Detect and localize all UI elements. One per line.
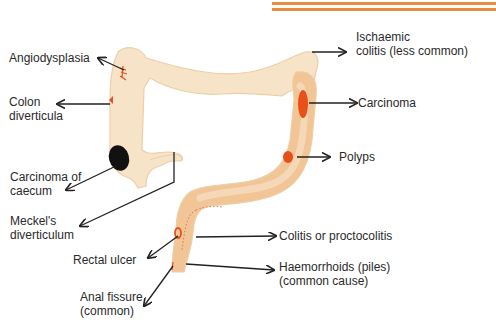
arrow-colitis [196,236,276,237]
label-anal-fissure: Anal fissure (common) [80,290,143,318]
label-colitis-proctocolitis: Colitis or proctocolitis [279,229,392,243]
label-angiodysplasia: Angiodysplasia [9,51,90,65]
label-colon-diverticula: Colon diverticula [9,95,63,123]
label-haemorrhoids: Haemorrhoids (piles) (common cause) [279,260,390,288]
label-ischaemic-colitis: Ischaemic colitis (less common) [356,30,468,58]
arrow-haemorrhoids [186,264,274,270]
label-carcinoma-of-caecum: Carcinoma of caecum [10,170,81,198]
label-meckels-diverticulum: Meckel's diverticulum [10,214,74,242]
carcinoma-lesion [298,90,308,118]
label-polyps: Polyps [339,150,375,164]
label-rectal-ulcer: Rectal ulcer [73,253,136,267]
arrow-anal-fissure [144,266,173,306]
header-decorative-lines [272,2,496,11]
label-carcinoma: Carcinoma [358,96,416,110]
polyp-lesion [283,151,293,163]
